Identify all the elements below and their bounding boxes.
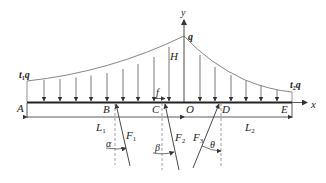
y-axis-label: y bbox=[180, 7, 186, 18]
point-c-label: C bbox=[152, 103, 160, 115]
friction-label: f bbox=[156, 87, 160, 98]
dimension-l2-label: L2 bbox=[244, 121, 255, 135]
svg-text:F2: F2 bbox=[174, 131, 186, 145]
svg-text:F1: F1 bbox=[125, 129, 137, 143]
angle-theta-label: θ bbox=[210, 139, 215, 150]
svg-text:F3: F3 bbox=[192, 131, 204, 145]
svg-text:L1: L1 bbox=[95, 121, 106, 135]
point-d-label: D bbox=[221, 103, 230, 115]
point-b-label: B bbox=[103, 103, 110, 115]
left-end-load-label: t1q bbox=[19, 69, 30, 81]
diagram-canvas: x y q H t1q t2q f A B C O D E L1 L2 F1 F… bbox=[0, 0, 326, 183]
distributed-load-arrows bbox=[44, 47, 277, 101]
point-e-label: E bbox=[280, 103, 288, 115]
x-axis-label: x bbox=[310, 98, 316, 110]
svg-text:t1q: t1q bbox=[19, 69, 30, 81]
point-a-label: A bbox=[16, 102, 24, 114]
angle-alpha-label: α bbox=[106, 138, 112, 149]
svg-text:t2q: t2q bbox=[290, 79, 301, 91]
point-o-label: O bbox=[186, 103, 194, 115]
svg-text:L2: L2 bbox=[244, 121, 255, 135]
beam-diagram: x y q H t1q t2q f A B C O D E L1 L2 F1 F… bbox=[0, 0, 326, 183]
dimension-lines bbox=[27, 103, 292, 118]
right-end-load-label: t2q bbox=[290, 79, 301, 91]
height-label: H bbox=[169, 50, 179, 62]
force-f2-label: F2 bbox=[174, 131, 186, 145]
angle-arcs bbox=[106, 146, 221, 154]
load-curve bbox=[27, 36, 292, 102]
peak-load-label: q bbox=[188, 31, 193, 42]
force-f1-label: F1 bbox=[125, 129, 137, 143]
force-f3-label: F3 bbox=[192, 131, 204, 145]
dimension-l1-label: L1 bbox=[95, 121, 106, 135]
angle-beta-label: β bbox=[154, 142, 160, 153]
